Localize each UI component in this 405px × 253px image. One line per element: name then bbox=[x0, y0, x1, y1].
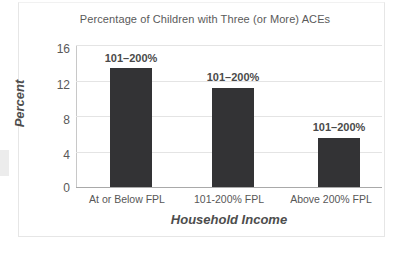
bar-value-label-3: 101–200% bbox=[283, 121, 395, 133]
y-axis-tick-0: 0 bbox=[30, 182, 70, 194]
bar-101-200-fpl bbox=[212, 88, 254, 187]
y-axis-title: Percent bbox=[12, 59, 27, 149]
x-axis-line bbox=[76, 187, 382, 188]
y-axis-tick-16: 16 bbox=[30, 43, 70, 55]
bar-at-or-below-fpl bbox=[110, 68, 152, 187]
scan-artifact bbox=[0, 150, 9, 176]
x-axis-tick-at-or-below-fpl: At or Below FPL bbox=[76, 193, 178, 205]
y-axis-tick-12: 12 bbox=[30, 79, 70, 91]
y-axis-tick-8: 8 bbox=[30, 114, 70, 126]
x-axis-title: Household Income bbox=[76, 212, 382, 227]
y-axis-tick-4: 4 bbox=[30, 149, 70, 161]
x-axis-tick-101-200-fpl: 101-200% FPL bbox=[178, 193, 280, 205]
bar-value-label-2: 101–200% bbox=[177, 71, 289, 83]
plot-area bbox=[76, 45, 382, 187]
x-axis-tick-above-200-fpl: Above 200% FPL bbox=[280, 193, 382, 205]
bar-chart-figure: Percentage of Children with Three (or Mo… bbox=[0, 0, 405, 253]
bar-above-200-fpl bbox=[318, 138, 360, 187]
chart-title: Percentage of Children with Three (or Mo… bbox=[40, 13, 370, 25]
gridline-16 bbox=[76, 45, 382, 46]
bar-value-label-1: 101–200% bbox=[75, 52, 187, 64]
